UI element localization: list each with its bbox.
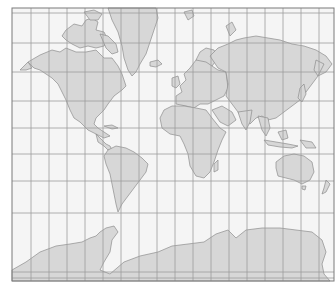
tasmania [302,186,306,190]
map-canvas [0,0,336,303]
world-map [0,0,336,303]
